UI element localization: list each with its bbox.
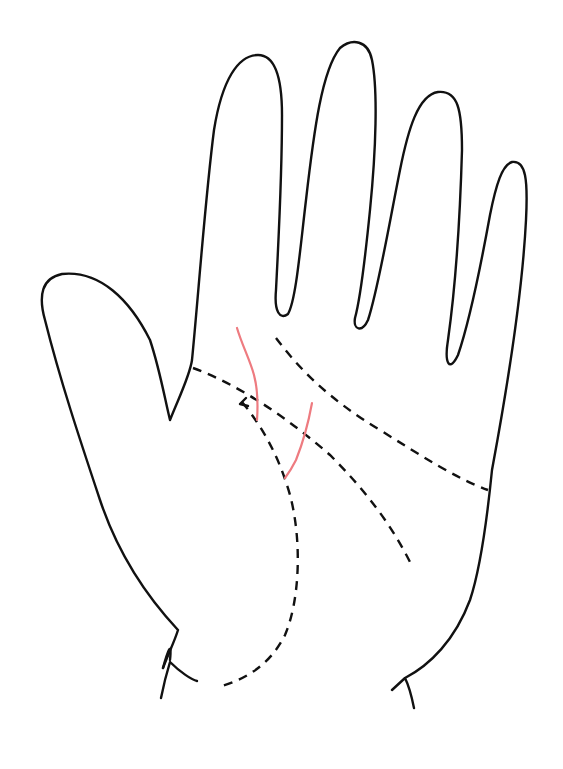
palm-diagram [0,0,563,769]
life-line [218,402,298,687]
hand-outline [42,42,527,708]
wrist-line-left [161,649,197,698]
heart-line [276,338,488,490]
head-line [193,368,412,566]
palm-illustration [0,0,563,769]
life-line-start-mark [240,398,248,406]
red-line-lower [285,403,312,478]
